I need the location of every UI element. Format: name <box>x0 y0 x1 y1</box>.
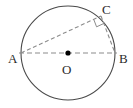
geometry-canvas <box>0 0 133 108</box>
center-point-dot <box>65 50 70 55</box>
vertex-label-b: B <box>119 52 128 65</box>
center-label-o: O <box>62 63 71 76</box>
vertex-label-c: C <box>102 3 111 16</box>
vertex-label-a: A <box>8 52 17 65</box>
geometry-figure: A B C O <box>0 0 133 108</box>
